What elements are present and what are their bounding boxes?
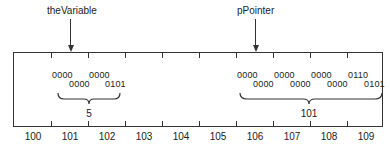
- pointer-bits: 0000: [253, 79, 274, 89]
- pointer-arrow-line: [255, 19, 256, 46]
- address-label: 100: [18, 131, 48, 142]
- top-tick: [199, 52, 200, 58]
- bottom-tick: [199, 121, 200, 127]
- top-tick: [125, 52, 126, 58]
- address-label: 104: [166, 131, 196, 142]
- top-tick: [162, 52, 163, 58]
- address-label: 101: [55, 131, 85, 142]
- memory-block: [13, 52, 383, 127]
- address-label: 105: [203, 131, 233, 142]
- pointer-bits: 0000: [327, 79, 348, 89]
- address-label: 107: [277, 131, 307, 142]
- address-label: 103: [129, 131, 159, 142]
- address-label: 109: [351, 131, 381, 142]
- top-tick: [310, 52, 311, 58]
- address-label: 106: [240, 131, 270, 142]
- bottom-tick: [273, 121, 274, 127]
- pointer-brace-icon: [237, 92, 387, 106]
- top-tick: [88, 52, 89, 58]
- bottom-tick: [125, 121, 126, 127]
- bottom-tick: [310, 121, 311, 127]
- bottom-tick: [88, 121, 89, 127]
- bottom-tick: [347, 121, 348, 127]
- address-label: 108: [314, 131, 344, 142]
- address-label: 102: [92, 131, 122, 142]
- pointer-bits: 0000: [290, 79, 311, 89]
- variable-bits: 0101: [105, 79, 126, 89]
- bottom-tick: [236, 121, 237, 127]
- pointer-name-label: pPointer: [237, 5, 274, 16]
- arrow-down-icon: [253, 45, 259, 52]
- top-tick: [273, 52, 274, 58]
- variable-bits: 0000: [69, 79, 90, 89]
- top-tick: [347, 52, 348, 58]
- top-tick: [51, 52, 52, 58]
- arrow-down-icon: [68, 45, 74, 52]
- variable-brace-icon: [55, 92, 125, 106]
- bottom-tick: [162, 121, 163, 127]
- variable-name-label: theVariable: [47, 5, 97, 16]
- variable-arrow-line: [70, 19, 71, 46]
- top-tick: [236, 52, 237, 58]
- pointer-value: 101: [294, 108, 324, 119]
- pointer-bits: 0101: [364, 79, 385, 89]
- variable-value: 5: [74, 108, 104, 119]
- bottom-tick: [51, 121, 52, 127]
